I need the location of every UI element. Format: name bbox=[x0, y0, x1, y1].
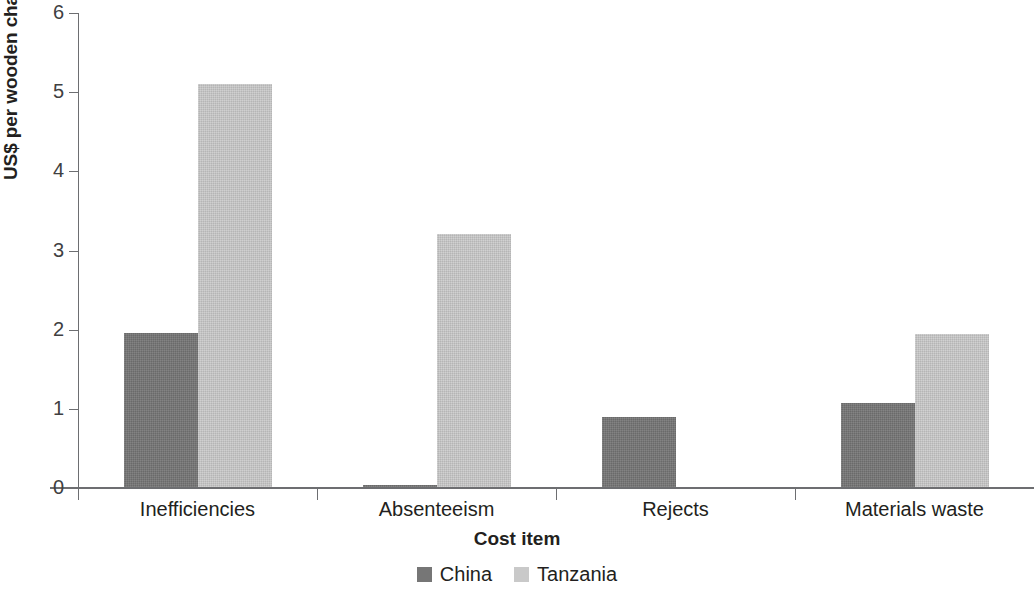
bar-china-inefficiencies bbox=[124, 333, 198, 487]
legend-label: Tanzania bbox=[537, 563, 617, 585]
y-tick: 5 bbox=[69, 92, 78, 93]
legend-entry-china[interactable]: China bbox=[417, 563, 492, 585]
y-tick-label: 4 bbox=[53, 159, 64, 181]
y-tick: 6 bbox=[69, 13, 78, 14]
y-axis-line bbox=[78, 13, 79, 489]
y-tick-label: 1 bbox=[53, 397, 64, 419]
y-tick-label: 3 bbox=[53, 239, 64, 261]
plot-area: 0123456 bbox=[78, 13, 1034, 488]
y-tick-label: 0 bbox=[53, 476, 64, 498]
x-category-label: Inefficiencies bbox=[78, 496, 317, 522]
bar-chart: US$ per wooden chair 0123456 Inefficienc… bbox=[0, 0, 1034, 593]
legend-entry-tanzania[interactable]: Tanzania bbox=[514, 563, 617, 585]
legend-label: China bbox=[440, 563, 492, 585]
y-axis-title: US$ per wooden chair bbox=[0, 0, 22, 180]
bar-tanzania-materials-waste bbox=[915, 334, 989, 487]
y-tick: 1 bbox=[69, 409, 78, 410]
x-axis-line bbox=[50, 487, 1034, 489]
x-category-label: Absenteeism bbox=[317, 496, 556, 522]
x-category-label: Rejects bbox=[556, 496, 795, 522]
chart-legend: ChinaTanzania bbox=[0, 563, 1034, 585]
y-tick: 3 bbox=[69, 251, 78, 252]
bar-tanzania-inefficiencies bbox=[198, 84, 272, 487]
y-tick: 0 bbox=[69, 488, 78, 489]
tanzania-swatch-icon bbox=[514, 567, 529, 582]
y-tick: 2 bbox=[69, 330, 78, 331]
y-tick: 4 bbox=[69, 171, 78, 172]
y-tick-label: 5 bbox=[53, 80, 64, 102]
bar-tanzania-absenteeism bbox=[437, 234, 511, 487]
bar-china-materials-waste bbox=[841, 403, 915, 487]
china-swatch-icon bbox=[417, 567, 432, 582]
y-tick-label: 2 bbox=[53, 318, 64, 340]
x-category-label: Materials waste bbox=[795, 496, 1034, 522]
bar-china-absenteeism bbox=[363, 485, 437, 487]
y-tick-label: 6 bbox=[53, 1, 64, 23]
x-axis-title: Cost item bbox=[0, 528, 1034, 550]
bar-china-rejects bbox=[602, 417, 676, 487]
